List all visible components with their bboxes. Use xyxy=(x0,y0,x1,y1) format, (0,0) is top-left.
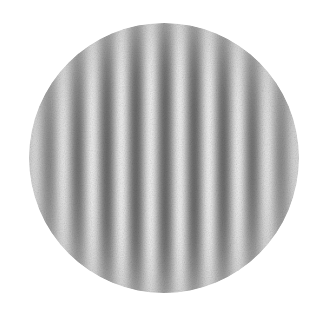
grain-noise-svg xyxy=(29,23,299,293)
paper-grain-texture xyxy=(29,23,299,293)
gabor-patch-aperture xyxy=(29,23,299,293)
stimulus-canvas xyxy=(0,0,316,312)
